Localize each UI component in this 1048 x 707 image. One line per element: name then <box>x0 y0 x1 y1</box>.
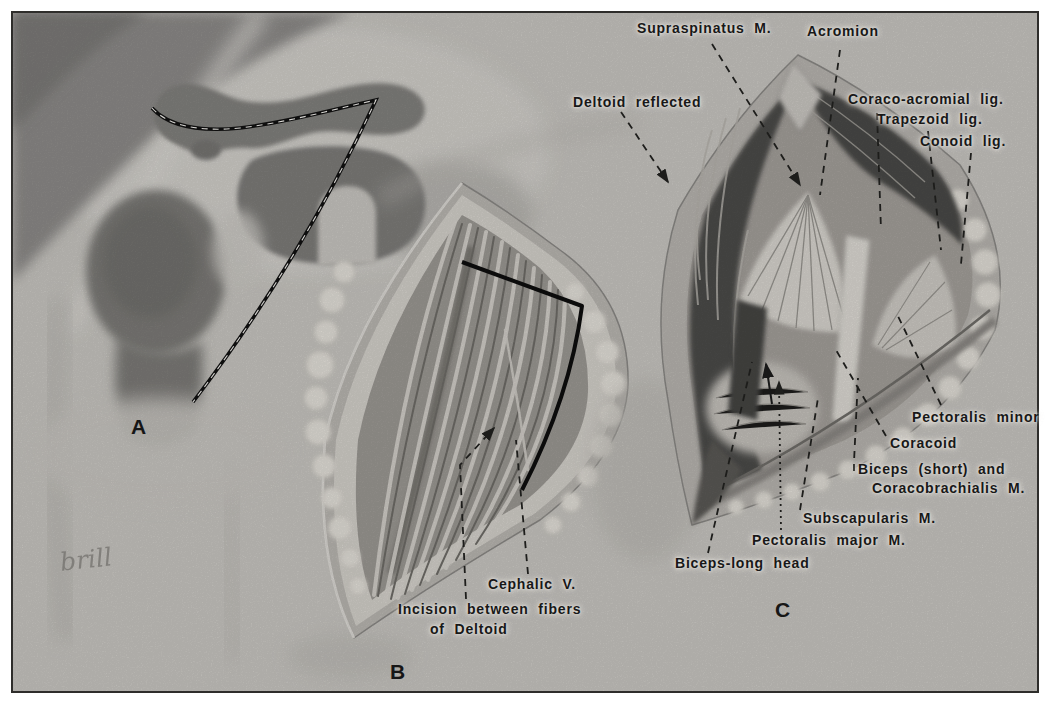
label-pectoralis-major-m: Pectoralis major M. <box>752 532 906 548</box>
label-biceps-short: Biceps (short) and <box>858 461 1005 477</box>
label-trapezoid-lig: Trapezoid lig. <box>877 111 983 127</box>
label-incision-line1: Incision between fibers <box>398 601 581 617</box>
panel-letter-b: B <box>390 660 406 684</box>
label-incision-line2: of Deltoid <box>430 621 508 637</box>
label-coracoid: Coracoid <box>890 435 957 451</box>
label-deltoid-reflected: Deltoid reflected <box>573 94 701 110</box>
label-acromion: Acromion <box>807 23 879 39</box>
label-pectoralis-minor: Pectoralis minor <box>912 409 1040 425</box>
label-cephalic-v: Cephalic V. <box>488 576 576 592</box>
label-conoid-lig: Conoid lig. <box>920 133 1006 149</box>
figure-stage: brill Supraspinatus M.AcromionCoraco-acr… <box>0 0 1048 707</box>
label-coraco-acromial-lig: Coraco-acromial lig. <box>848 91 1004 107</box>
label-biceps-long-head: Biceps-long head <box>675 555 809 571</box>
panel-letter-c: C <box>775 598 791 622</box>
label-subscapularis-m: Subscapularis M. <box>803 510 936 526</box>
label-coracobrachialis-m: Coracobrachialis M. <box>872 480 1025 496</box>
label-supraspinatus-m: Supraspinatus M. <box>637 20 771 36</box>
artist-signature: brill <box>59 542 114 576</box>
panel-letter-a: A <box>131 415 147 439</box>
